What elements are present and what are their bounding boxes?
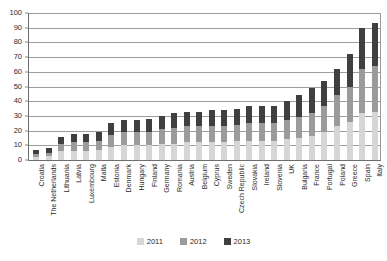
bar-column[interactable] [180,13,193,160]
bar-series-group [30,13,381,160]
bar-column[interactable] [30,13,43,160]
bar-segment-2012 [134,132,140,145]
bar-stack [359,28,365,160]
bar-segment-2011 [33,157,39,160]
bar-segment-2012 [71,142,77,151]
legend-label: 2011 [147,238,163,246]
x-axis-label-cell: Denmark [117,162,130,230]
bar-column[interactable] [80,13,93,160]
bar-column[interactable] [368,13,381,160]
bar-segment-2012 [196,126,202,142]
legend-label: 2012 [190,238,207,246]
legend-item[interactable]: 2012 [180,238,207,246]
x-axis-label-cell: Czech Republic [230,162,243,230]
x-axis-label-cell: Romania [167,162,180,230]
y-axis-tick-label: 20 [14,127,22,135]
bar-column[interactable] [243,13,256,160]
bar-column[interactable] [231,13,244,160]
bar-segment-2013 [221,110,227,126]
bar-column[interactable] [306,13,319,160]
y-axis-tick-label: 0 [18,156,22,164]
bar-segment-2011 [334,126,340,160]
bar-segment-2011 [71,151,77,160]
x-axis-label-cell: Austria [179,162,192,230]
bar-column[interactable] [318,13,331,160]
bar-column[interactable] [268,13,281,160]
bar-segment-2013 [372,23,378,66]
bar-segment-2011 [184,142,190,160]
bar-column[interactable] [256,13,269,160]
bar-column[interactable] [218,13,231,160]
y-axis-tick-label: 30 [14,112,22,120]
bar-column[interactable] [293,13,306,160]
plot-area [28,13,381,161]
bar-segment-2011 [234,141,240,160]
bar-segment-2011 [121,145,127,160]
bar-stack [259,106,265,160]
x-axis-label-cell: Italy [367,162,380,230]
bar-segment-2011 [196,142,202,160]
x-axis-label: Italy [376,164,383,177]
bar-segment-2011 [321,132,327,160]
x-axis-label-cell: Lithuania [54,162,67,230]
bar-column[interactable] [205,13,218,160]
x-axis-label-cell: Estonia [104,162,117,230]
bar-segment-2013 [196,112,202,127]
bar-segment-2013 [134,120,140,132]
bar-segment-2012 [58,144,64,151]
bar-segment-2013 [108,123,114,135]
bar-segment-2012 [246,123,252,141]
bar-column[interactable] [93,13,106,160]
y-axis-tick-label: 70 [14,53,22,61]
bar-column[interactable] [105,13,118,160]
bar-segment-2012 [121,132,127,145]
bar-stack [108,123,114,160]
bar-segment-2013 [246,106,252,124]
bar-segment-2012 [83,142,89,151]
legend-item[interactable]: 2011 [137,238,163,246]
bar-segment-2011 [246,141,252,160]
bar-stack [146,119,152,160]
bar-column[interactable] [68,13,81,160]
bar-column[interactable] [356,13,369,160]
bar-stack [334,69,340,160]
bar-segment-2012 [108,135,114,147]
bar-segment-2013 [58,137,64,144]
bar-column[interactable] [43,13,56,160]
bar-column[interactable] [155,13,168,160]
bar-stack [159,116,165,160]
bar-stack [321,81,327,160]
bar-column[interactable] [143,13,156,160]
bar-segment-2012 [347,87,353,122]
bar-segment-2013 [334,69,340,95]
chart-legend: 201120122013 [0,238,387,246]
legend-swatch [224,238,231,245]
bar-segment-2011 [146,145,152,160]
bar-stack [58,137,64,161]
x-axis-label-cell: Sweden [217,162,230,230]
legend-item[interactable]: 2013 [224,238,251,246]
bar-segment-2013 [146,119,152,132]
bar-stack [134,120,140,160]
bar-segment-2012 [159,129,165,144]
bar-column[interactable] [55,13,68,160]
bar-segment-2013 [284,101,290,120]
x-axis-label-cell: Greece [342,162,355,230]
bar-column[interactable] [331,13,344,160]
bar-stack [209,110,215,160]
x-axis-label-cell: The Netherlands [42,162,55,230]
bar-column[interactable] [168,13,181,160]
bar-column[interactable] [193,13,206,160]
bar-segment-2011 [347,122,353,160]
x-axis-label-cell: Germany [154,162,167,230]
y-axis-tick-label: 100 [9,9,22,17]
bar-column[interactable] [343,13,356,160]
bar-segment-2013 [309,88,315,113]
bar-stack [234,109,240,160]
bar-stack [309,88,315,160]
bar-segment-2011 [296,138,302,160]
bar-stack [83,134,89,160]
bar-column[interactable] [118,13,131,160]
bar-column[interactable] [281,13,294,160]
bar-column[interactable] [130,13,143,160]
